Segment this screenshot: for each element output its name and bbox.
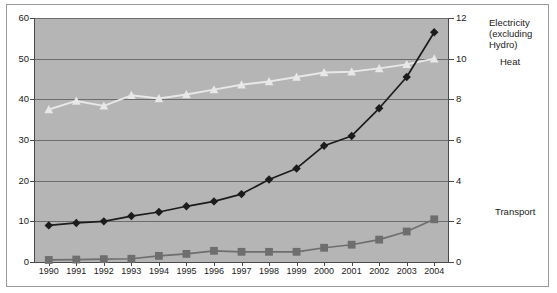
data-point: [45, 256, 53, 264]
data-point: [430, 28, 438, 36]
data-point: [127, 255, 135, 263]
series-heat: [44, 54, 438, 113]
data-point: [293, 248, 301, 256]
data-point: [72, 256, 80, 264]
data-point: [430, 215, 438, 223]
series-electricity-excluding-hydro: [45, 28, 439, 230]
data-point: [237, 190, 245, 198]
data-point: [348, 241, 356, 249]
data-point: [100, 217, 108, 225]
series-label-electricity-line2: (excluding Hydro): [489, 28, 555, 50]
data-point: [265, 248, 273, 256]
data-point: [320, 244, 328, 252]
data-point: [182, 202, 190, 210]
data-point: [72, 219, 80, 227]
data-point: [45, 221, 53, 229]
data-point: [375, 236, 383, 244]
series-label-electricity: Electricity (excluding Hydro): [489, 17, 555, 50]
data-point: [210, 197, 218, 205]
data-point: [155, 252, 163, 260]
data-point: [155, 208, 163, 216]
series-label-transport: Transport: [495, 206, 555, 217]
series-label-heat: Heat: [500, 56, 557, 67]
data-point: [210, 247, 218, 255]
data-point: [265, 175, 273, 183]
data-point: [238, 248, 246, 256]
series-layer: [0, 0, 557, 293]
data-point: [127, 212, 135, 220]
series-label-electricity-line1: Electricity: [489, 17, 555, 28]
chart-root: 0102030405060 024681012 1990199119921993…: [0, 0, 557, 293]
data-point: [403, 228, 411, 236]
data-point: [100, 255, 108, 263]
data-point: [183, 250, 191, 258]
